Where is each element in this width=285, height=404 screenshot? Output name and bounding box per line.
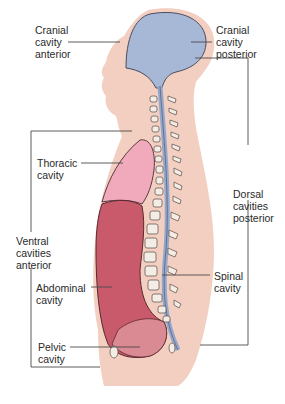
label-cranial-cavity-anterior: Cranial cavity anterior: [35, 24, 71, 60]
label-dorsal-cavities-posterior: Dorsal cavities posterior: [233, 188, 274, 224]
label-cranial-cavity-posterior: Cranial cavity posterior: [216, 24, 257, 60]
label-ventral-cavities-anterior: Ventral cavities anterior: [16, 235, 52, 271]
label-pelvic-cavity: Pelvic cavity: [38, 341, 66, 365]
label-thoracic-cavity: Thoracic cavity: [37, 157, 77, 181]
label-spinal-cavity: Spinal cavity: [214, 270, 243, 294]
label-abdominal-cavity: Abdominal cavity: [36, 282, 86, 306]
